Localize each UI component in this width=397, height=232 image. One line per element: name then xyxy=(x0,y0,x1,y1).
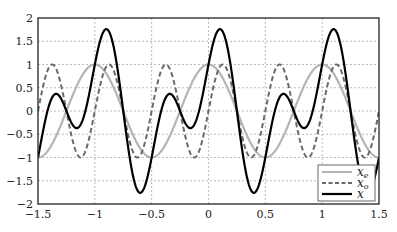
line-chart: −1.5−1−0.500.511.5 −2−1.5−1−0.500.511.52… xyxy=(0,0,397,232)
x-tick-label: 1.5 xyxy=(370,208,388,221)
x-tick-label: −1 xyxy=(87,208,103,221)
y-tick-label: 1 xyxy=(26,59,33,72)
x-tick-label: 0.5 xyxy=(257,208,275,221)
y-tick-label: −2 xyxy=(17,198,33,211)
y-tick-label: 1.5 xyxy=(16,35,34,48)
y-tick-label: 0 xyxy=(26,105,33,118)
y-tick-label: 2 xyxy=(26,12,33,25)
legend: xe xo x xyxy=(318,165,375,201)
y-axis-ticks: −2−1.5−1−0.500.511.52 xyxy=(6,12,33,211)
x-axis-ticks: −1.5−1−0.500.511.5 xyxy=(25,208,388,221)
y-tick-label: −1 xyxy=(17,152,33,165)
x-tick-label: 1 xyxy=(319,208,326,221)
y-tick-label: −1.5 xyxy=(6,175,33,188)
x-tick-label: 0 xyxy=(205,208,212,221)
y-tick-label: −0.5 xyxy=(6,128,33,141)
x-tick-label: −0.5 xyxy=(138,208,165,221)
legend-label-x: x xyxy=(357,187,364,201)
y-tick-label: 0.5 xyxy=(16,82,34,95)
